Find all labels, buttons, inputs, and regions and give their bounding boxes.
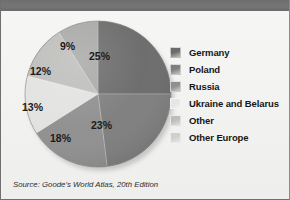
legend-item-label: Other Europe xyxy=(189,132,249,143)
legend: GermanyPolandRussiaUkraine and BelarusOt… xyxy=(170,44,288,146)
legend-color-swatch xyxy=(170,47,181,58)
legend-item[interactable]: Poland xyxy=(170,61,288,78)
legend-item-label: Germany xyxy=(189,47,230,58)
legend-color-swatch xyxy=(170,132,181,143)
chart-title-bar xyxy=(1,0,290,11)
legend-color-swatch xyxy=(170,115,181,126)
legend-color-swatch xyxy=(170,98,181,109)
legend-item-label: Poland xyxy=(189,64,220,75)
legend-item[interactable]: Russia xyxy=(170,78,288,95)
pie-slice-value-label: 13% xyxy=(22,101,43,113)
legend-item-label: Russia xyxy=(189,81,220,92)
pie-slices-svg xyxy=(24,20,172,168)
pie-slice-value-label: 23% xyxy=(91,119,112,131)
legend-item[interactable]: Germany xyxy=(170,44,288,61)
legend-color-swatch xyxy=(170,64,181,75)
pie-slice-value-label: 9% xyxy=(60,40,75,52)
legend-item[interactable]: Other Europe xyxy=(170,129,288,146)
chart-plot-area: 25%23%18%13%12%9% GermanyPolandRussiaUkr… xyxy=(2,11,290,199)
legend-color-swatch xyxy=(170,81,181,92)
legend-item-label: Ukraine and Belarus xyxy=(189,98,279,109)
legend-item-label: Other xyxy=(189,115,214,126)
pie-slice-value-label: 25% xyxy=(89,50,110,62)
pie-chart: 25%23%18%13%12%9% xyxy=(24,20,172,168)
source-note: Source: Goode's World Atlas, 20th Editio… xyxy=(13,180,158,189)
pie-slice-value-label: 18% xyxy=(50,132,71,144)
pie-chart-figure: 25%23%18%13%12%9% GermanyPolandRussiaUkr… xyxy=(0,0,290,200)
legend-item[interactable]: Other xyxy=(170,112,288,129)
legend-item[interactable]: Ukraine and Belarus xyxy=(170,95,288,112)
pie-slice-value-label: 12% xyxy=(30,65,51,77)
